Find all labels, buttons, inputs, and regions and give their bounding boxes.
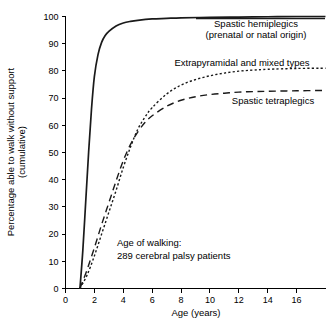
y-tick-label: 70 xyxy=(48,93,58,103)
x-tick-label: 8 xyxy=(179,295,184,305)
y-tick-label: 100 xyxy=(43,12,58,22)
x-tick-label: 16 xyxy=(292,295,302,305)
series-label-spastic-hemiplegics-line2: (prenatal or natal origin) xyxy=(206,29,307,40)
x-tick-label: 12 xyxy=(234,295,244,305)
x-axis-title: Age (years) xyxy=(171,307,220,318)
x-axis-ticks xyxy=(66,289,297,293)
series-label-extrapyramidal-mixed: Extrapyramidal and mixed types xyxy=(174,57,309,68)
series-label-spastic-hemiplegics-line1: Spastic hemiplegics xyxy=(214,18,298,29)
y-tick-label: 60 xyxy=(48,121,58,131)
y-tick-label: 10 xyxy=(48,257,58,267)
y-tick-label: 30 xyxy=(48,202,58,212)
x-tick-label: 4 xyxy=(121,295,126,305)
x-axis-tick-labels: 0246810121416 xyxy=(63,295,302,305)
x-tick-label: 0 xyxy=(63,295,68,305)
series-label-spastic-tetraplegics: Spastic tetraplegics xyxy=(232,95,315,106)
chart-caption-line2: 289 cerebral palsy patients xyxy=(117,250,231,261)
y-tick-label: 0 xyxy=(53,284,58,294)
chart-container: 0102030405060708090100 0246810121416 Age… xyxy=(0,0,334,326)
chart-caption-line1: Age of walking: xyxy=(117,237,181,248)
x-tick-label: 14 xyxy=(263,295,273,305)
y-tick-label: 90 xyxy=(48,39,58,49)
age-of-walking-line-chart: 0102030405060708090100 0246810121416 Age… xyxy=(0,0,334,326)
x-tick-label: 10 xyxy=(205,295,215,305)
y-axis-ticks xyxy=(62,17,66,289)
y-tick-label: 20 xyxy=(48,229,58,239)
y-tick-label: 40 xyxy=(48,175,58,185)
y-axis-title-line1: Percentage able to walk without support xyxy=(5,67,16,236)
y-tick-label: 50 xyxy=(48,148,58,158)
y-axis-tick-labels: 0102030405060708090100 xyxy=(43,12,58,294)
x-tick-label: 2 xyxy=(92,295,97,305)
y-tick-label: 80 xyxy=(48,66,58,76)
x-tick-label: 6 xyxy=(150,295,155,305)
y-axis-title-line2: (cumulative) xyxy=(16,126,27,178)
